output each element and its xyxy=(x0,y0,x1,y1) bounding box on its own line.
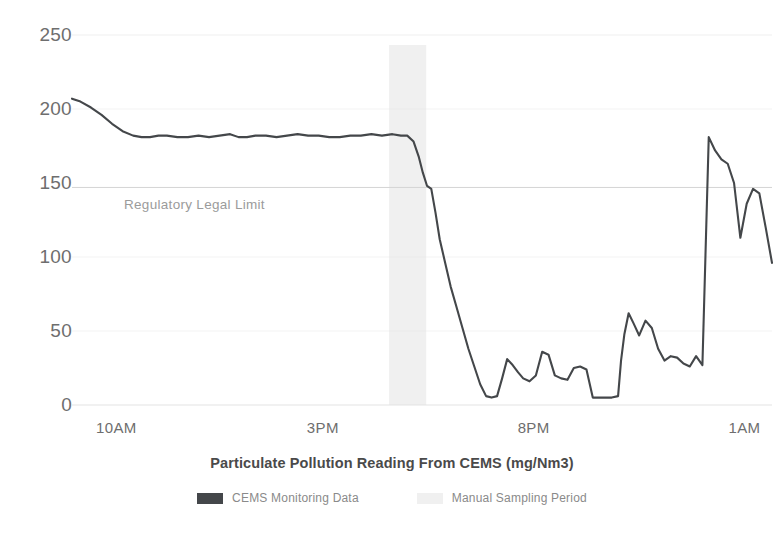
y-axis-tick-label: 50 xyxy=(14,321,72,340)
x-axis-tick-label: 8PM xyxy=(518,419,550,436)
legend-swatch-icon xyxy=(197,493,223,504)
chart-title: Particulate Pollution Reading From CEMS … xyxy=(0,455,784,471)
y-axis-tick-label: 250 xyxy=(14,25,72,44)
manual-sampling-band xyxy=(389,45,426,405)
regulatory-limit-label: Regulatory Legal Limit xyxy=(124,197,265,212)
x-axis-tick-label: 3PM xyxy=(307,419,339,436)
y-axis-tick-label: 200 xyxy=(14,99,72,118)
legend-item-manual-sampling[interactable]: Manual Sampling Period xyxy=(417,491,587,505)
y-axis-ticks: 050100150200250 xyxy=(0,0,72,534)
shaded-region-group xyxy=(389,45,426,405)
y-axis-tick-label: 150 xyxy=(14,173,72,192)
legend-label-cems: CEMS Monitoring Data xyxy=(232,491,359,505)
x-axis-tick-label: 10AM xyxy=(96,419,137,436)
y-axis-tick-label: 100 xyxy=(14,247,72,266)
chart-legend: CEMS Monitoring Data Manual Sampling Per… xyxy=(0,491,784,505)
legend-swatch-icon xyxy=(417,493,443,504)
legend-item-cems[interactable]: CEMS Monitoring Data xyxy=(197,491,359,505)
x-axis-tick-label: 1AM xyxy=(728,419,760,436)
chart-container: 050100150200250 10AM3PM8PM1AM Regulatory… xyxy=(0,0,784,534)
legend-label-manual-sampling: Manual Sampling Period xyxy=(452,491,587,505)
chart-plot-area xyxy=(0,0,784,534)
y-axis-tick-label: 0 xyxy=(14,395,72,414)
